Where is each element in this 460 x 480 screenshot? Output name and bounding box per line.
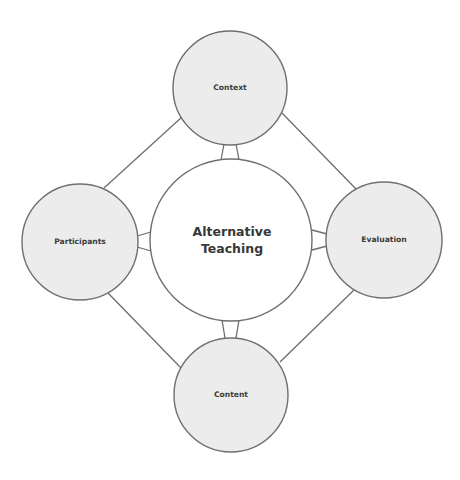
link-evaluation-content	[280, 290, 354, 362]
node-content: Content	[174, 338, 288, 452]
node-evaluation: Evaluation	[326, 182, 442, 298]
center-label-line1: Alternative	[193, 224, 272, 239]
connector-left	[137, 232, 151, 251]
connector-right	[312, 230, 327, 250]
connector-bottom	[222, 320, 239, 338]
evaluation-label: Evaluation	[361, 235, 406, 244]
node-participants: Participants	[22, 184, 138, 300]
link-context-evaluation	[282, 113, 356, 189]
connector-top	[221, 144, 239, 160]
alternative-teaching-diagram: Context Participants Evaluation Content …	[0, 0, 460, 480]
center-label-line2: Teaching	[201, 241, 263, 256]
node-context: Context	[173, 31, 287, 145]
link-participants-content	[108, 293, 181, 368]
link-context-participants	[104, 117, 182, 188]
node-center: Alternative Teaching	[150, 159, 312, 321]
participants-label: Participants	[54, 237, 106, 246]
context-label: Context	[213, 83, 247, 92]
content-label: Content	[214, 390, 248, 399]
